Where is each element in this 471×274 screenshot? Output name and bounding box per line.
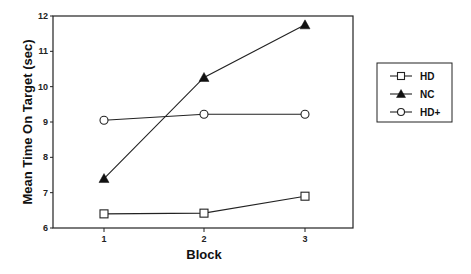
- series-nc: [99, 20, 310, 183]
- x-axis: 123: [101, 228, 307, 244]
- legend-label: HD: [420, 71, 434, 82]
- series-hd-plus: [100, 110, 309, 124]
- triangle-marker-icon: [300, 20, 310, 29]
- y-tick-label: 6: [43, 223, 48, 233]
- x-tick-label: 1: [101, 234, 106, 244]
- x-tick-label: 3: [302, 234, 307, 244]
- circle-marker-icon: [100, 116, 108, 124]
- y-tick-label: 11: [38, 46, 48, 56]
- line-chart: 6789101112 123 Mean Time On Target (sec)…: [0, 0, 471, 274]
- y-axis: 6789101112: [38, 11, 53, 233]
- legend-label: NC: [420, 89, 434, 100]
- circle-marker-icon: [301, 110, 309, 118]
- square-marker-icon: [398, 73, 405, 80]
- series-group: [99, 20, 310, 218]
- circle-marker-icon: [398, 109, 405, 116]
- circle-marker-icon: [200, 110, 208, 118]
- x-axis-title: Block: [186, 247, 222, 262]
- square-marker-icon: [301, 192, 309, 200]
- legend-box: [377, 63, 452, 122]
- y-tick-label: 8: [43, 152, 48, 162]
- legend-label: HD+: [420, 107, 440, 118]
- x-tick-label: 2: [201, 234, 206, 244]
- series-hd: [100, 192, 309, 218]
- y-tick-label: 12: [38, 11, 48, 21]
- series-line: [104, 25, 305, 179]
- square-marker-icon: [200, 209, 208, 217]
- y-tick-label: 9: [43, 117, 48, 127]
- triangle-marker-icon: [199, 72, 209, 81]
- y-tick-label: 10: [38, 82, 48, 92]
- y-axis-title: Mean Time On Target (sec): [20, 40, 35, 205]
- y-tick-label: 7: [43, 188, 48, 198]
- legend: HDNCHD+: [377, 63, 452, 122]
- square-marker-icon: [100, 210, 108, 218]
